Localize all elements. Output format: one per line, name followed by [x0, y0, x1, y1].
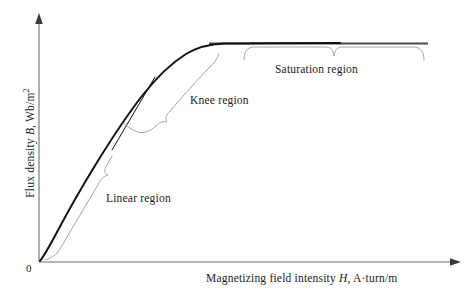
initial-permeability-tangent-line: [112, 77, 155, 150]
x-axis-arrowhead: [450, 258, 461, 266]
x-axis-label: Magnetizing field intensity H, A·turn/m: [206, 272, 397, 284]
y-axis-arrowhead: [35, 13, 43, 24]
bh-curve-plot: [0, 0, 472, 296]
y-axis-label-prefix: Flux density: [24, 135, 36, 198]
x-axis-symbol: H: [339, 272, 348, 284]
y-axis-label-mid: , Wb/m: [24, 92, 36, 128]
y-axis-exponent: 2: [22, 88, 31, 92]
saturation-region-label: Saturation region: [275, 63, 358, 75]
magnetization-curve-figure: Linear region Knee region Saturation reg…: [0, 0, 472, 296]
saturation-region-brace: [244, 47, 424, 60]
y-axis-symbol: B: [24, 128, 36, 135]
x-axis-label-prefix: Magnetizing field intensity: [206, 272, 339, 284]
linear-region-label: Linear region: [106, 192, 171, 204]
linear-region-brace: [45, 156, 112, 260]
knee-region-label: Knee region: [190, 94, 249, 106]
y-axis-label: Flux density B, Wb/m2: [22, 63, 36, 223]
origin-label: 0: [26, 262, 32, 274]
x-axis-label-suffix: , A·turn/m: [348, 272, 398, 284]
bh-curve-path: [40, 43, 340, 261]
